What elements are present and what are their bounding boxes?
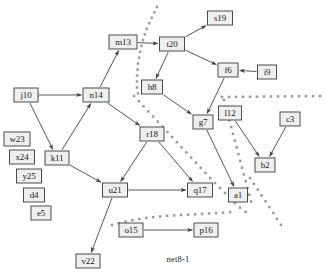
node-l12[interactable]: l12: [219, 106, 242, 120]
cut-dot: [264, 200, 267, 203]
node-label: e5: [37, 208, 46, 218]
node-e5[interactable]: e5: [31, 206, 51, 220]
node-x24[interactable]: x24: [10, 150, 35, 164]
edge-n14-r18: [107, 103, 139, 126]
node-r18[interactable]: r18: [140, 127, 164, 141]
edge-j10-k11: [30, 103, 53, 150]
node-y25[interactable]: y25: [17, 169, 42, 183]
node-label: l12: [225, 108, 236, 118]
cut-dot: [146, 27, 149, 30]
node-g7[interactable]: g7: [193, 115, 213, 129]
cut-dot: [319, 95, 322, 98]
node-label: j10: [20, 90, 33, 100]
edge-k11-u21: [70, 165, 101, 182]
cut-dot: [124, 220, 127, 223]
cut-dot: [243, 173, 246, 176]
diagram-caption: net8-1: [167, 254, 190, 264]
cut-dot: [157, 120, 160, 123]
cut-dot: [190, 156, 193, 159]
node-label: q17: [194, 185, 208, 195]
node-q17[interactable]: q17: [188, 183, 213, 197]
node-label: d4: [30, 190, 39, 200]
edge-h8-g7: [164, 95, 192, 114]
cut-dot: [222, 211, 225, 214]
node-t20[interactable]: t20: [160, 37, 185, 51]
cut-dot: [244, 211, 247, 214]
node-h8[interactable]: h8: [142, 80, 163, 94]
node-label: g7: [199, 117, 208, 127]
cut-dot: [215, 212, 218, 215]
cut-dot: [145, 217, 148, 220]
cut-dot: [298, 95, 301, 98]
cut-dot: [136, 80, 139, 83]
cut-dot: [138, 100, 141, 103]
node-label: v22: [82, 256, 95, 266]
cut-dot: [229, 211, 232, 214]
cut-dot: [272, 212, 275, 215]
cut-dot: [224, 192, 227, 195]
cut-dot: [235, 146, 238, 149]
node-v22[interactable]: v22: [76, 254, 100, 268]
cut-dot: [201, 213, 204, 216]
cut-dot: [176, 141, 179, 144]
cut-dot: [270, 95, 273, 98]
node-label: h8: [148, 82, 157, 92]
node-label: p16: [200, 225, 214, 235]
cut-dot: [139, 50, 142, 53]
cut-dot: [239, 160, 242, 163]
cut-dot: [256, 95, 259, 98]
cut-dot: [173, 214, 176, 217]
cut-dot: [136, 86, 139, 89]
node-label: k11: [51, 153, 64, 163]
cut-dot: [138, 56, 141, 59]
cut-dot: [214, 182, 217, 185]
cut-dot: [180, 214, 183, 217]
cut-dot: [221, 96, 224, 99]
node-c3[interactable]: c3: [280, 112, 300, 126]
node-label: i9: [264, 67, 271, 77]
cut-dot: [241, 166, 244, 169]
node-m13[interactable]: m13: [109, 35, 137, 49]
cut-dot: [152, 216, 155, 219]
diagram-canvas: j10n14m13t20s19f6i9h8g7l12c3b2a1r18k11u2…: [0, 0, 325, 280]
edge-c3-b2: [270, 127, 286, 157]
node-j10[interactable]: j10: [14, 88, 38, 102]
node-s19[interactable]: s19: [208, 11, 233, 25]
node-label: c3: [286, 114, 295, 124]
node-label: s19: [214, 13, 227, 23]
node-p16[interactable]: p16: [194, 223, 218, 237]
edge-r18-u21: [121, 142, 147, 182]
node-w23[interactable]: w23: [4, 132, 30, 146]
node-i9[interactable]: i9: [258, 65, 277, 79]
edge-t20-s19: [186, 26, 207, 37]
cut-dot: [257, 188, 260, 191]
cut-dot: [223, 99, 226, 102]
node-o15[interactable]: o15: [119, 223, 143, 237]
edge-m13-t20: [138, 43, 158, 44]
node-d4[interactable]: d4: [24, 188, 45, 202]
node-k11[interactable]: k11: [45, 151, 69, 165]
cut-dot: [199, 167, 202, 170]
node-n14[interactable]: n14: [83, 88, 109, 102]
cut-dot: [312, 95, 315, 98]
cut-dot: [305, 95, 308, 98]
cut-dot: [280, 223, 283, 226]
cut-dot: [194, 213, 197, 216]
node-f6[interactable]: f6: [218, 63, 238, 77]
node-a1[interactable]: a1: [229, 188, 248, 202]
cut-dot: [111, 224, 114, 227]
cut-dot: [136, 74, 139, 77]
cut-dot: [230, 126, 233, 129]
cut-dot: [228, 96, 231, 99]
cut-dot: [242, 96, 245, 99]
network-graph: j10n14m13t20s19f6i9h8g7l12c3b2a1r18k11u2…: [0, 0, 325, 280]
node-u21[interactable]: u21: [103, 183, 128, 197]
node-b2[interactable]: b2: [255, 158, 275, 172]
cut-dot: [253, 183, 256, 186]
node-label: y25: [23, 171, 37, 181]
cut-dot: [187, 213, 190, 216]
cut-dot: [208, 212, 211, 215]
cut-dot: [140, 45, 143, 48]
cut-dot: [268, 206, 271, 209]
cut-dot: [284, 95, 287, 98]
